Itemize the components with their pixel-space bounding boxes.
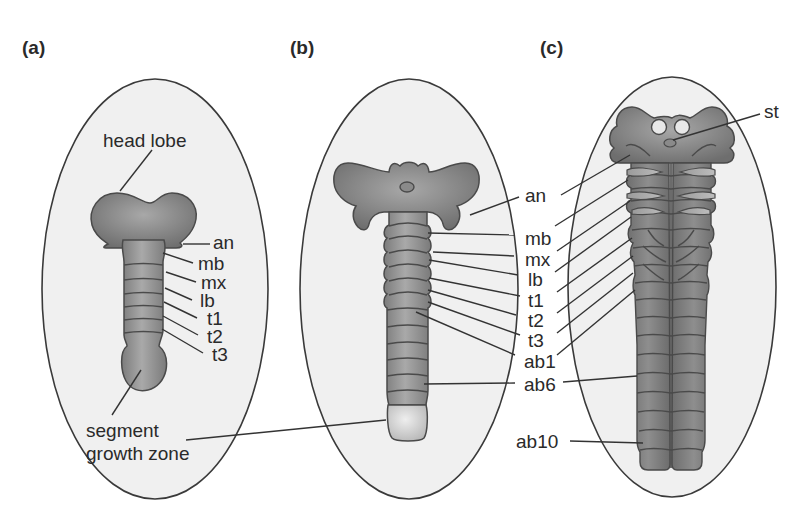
label-lb-b: lb (528, 269, 543, 290)
panel-letter-c: (c) (540, 37, 563, 58)
label-ab10: ab10 (516, 431, 558, 452)
label-t2-b: t2 (528, 310, 544, 331)
label-head-lobe: head lobe (103, 130, 186, 151)
label-t3-b: t3 (528, 330, 544, 351)
stomodeum-b (400, 182, 414, 192)
insect-embryo-development-figure: (a) head lobe an mb mx (0, 0, 802, 522)
label-st: st (764, 101, 780, 122)
label-segment: segment (86, 420, 160, 441)
growth-zone-b (387, 405, 427, 441)
panel-letter-b: (b) (290, 37, 314, 58)
label-ab1: ab1 (524, 351, 556, 372)
trunk-a (122, 240, 167, 391)
label-mb-a: mb (198, 253, 224, 274)
label-mb-b: mb (525, 228, 551, 249)
head-circle-left (652, 120, 667, 135)
label-mx-b: mx (525, 249, 551, 270)
label-t3-a: t3 (212, 344, 228, 365)
panel-a: (a) head lobe an mb mx (22, 37, 268, 499)
panel-c: (c) (516, 37, 780, 497)
label-growth-zone: growth zone (86, 443, 190, 464)
label-t1-b: t1 (528, 290, 544, 311)
label-an-a: an (213, 232, 234, 253)
label-an-b: an (525, 185, 546, 206)
panel-letter-a: (a) (22, 37, 45, 58)
head-circle-right (675, 120, 690, 135)
label-ab6: ab6 (524, 374, 556, 395)
trunk-c (627, 163, 716, 470)
